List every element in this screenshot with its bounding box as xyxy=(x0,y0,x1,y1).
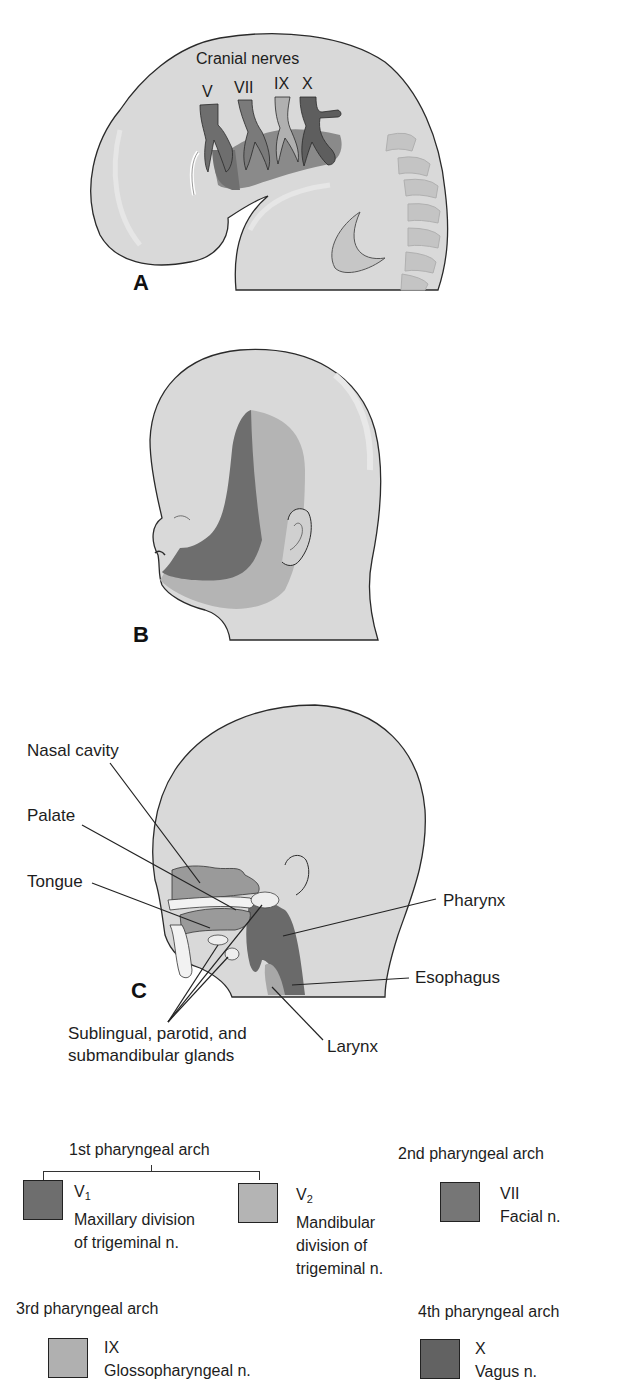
legend-vii-name: Facial n. xyxy=(500,1205,560,1228)
legend-x-name: Vagus n. xyxy=(475,1360,537,1383)
legend-arch1-bracket-tick xyxy=(151,1165,152,1171)
legend-v2-code: V xyxy=(296,1186,307,1203)
legend-ix-code: IX xyxy=(104,1336,251,1359)
legend-vii-text: VII Facial n. xyxy=(500,1182,560,1228)
legend-v2-line2: division of xyxy=(296,1234,383,1257)
legend-arch1-title: 1st pharyngeal arch xyxy=(69,1141,210,1159)
label-nasal-cavity: Nasal cavity xyxy=(27,741,119,761)
panel-letter-c: C xyxy=(131,978,147,1004)
legend-ix-text: IX Glossopharyngeal n. xyxy=(104,1336,251,1382)
label-glands-line1: Sublingual, parotid, and xyxy=(68,1024,247,1044)
legend-x-code: X xyxy=(475,1337,537,1360)
legend-v1-code: V xyxy=(74,1183,85,1200)
legend-v1-line2: of trigeminal n. xyxy=(74,1231,195,1254)
legend-ix-name: Glossopharyngeal n. xyxy=(104,1359,251,1382)
legend-arch1-bracket xyxy=(43,1171,260,1180)
sagittal-section-illustration xyxy=(0,0,622,1060)
legend-x-text: X Vagus n. xyxy=(475,1337,537,1383)
legend-v2-sub: 2 xyxy=(307,1193,313,1205)
swatch-ix xyxy=(48,1338,88,1378)
legend-vii-code: VII xyxy=(500,1182,560,1205)
legend-v2-line1: Mandibular xyxy=(296,1211,383,1234)
legend-v2-line3: trigeminal n. xyxy=(296,1257,383,1280)
legend-arch4-title: 4th pharyngeal arch xyxy=(418,1303,559,1321)
swatch-x xyxy=(420,1339,460,1379)
legend-v1-line1: Maxillary division xyxy=(74,1208,195,1231)
label-larynx: Larynx xyxy=(327,1037,378,1057)
legend-v1-text: V1 Maxillary division of trigeminal n. xyxy=(74,1180,195,1254)
legend-v2-text: V2 Mandibular division of trigeminal n. xyxy=(296,1183,383,1280)
legend-arch3-title: 3rd pharyngeal arch xyxy=(16,1300,158,1318)
label-tongue: Tongue xyxy=(27,872,83,892)
label-palate: Palate xyxy=(27,806,75,826)
swatch-v1 xyxy=(23,1180,63,1220)
legend-v1-sub: 1 xyxy=(85,1190,91,1202)
label-pharynx: Pharynx xyxy=(443,891,505,911)
label-glands-line2: submandibular glands xyxy=(68,1046,234,1066)
label-esophagus: Esophagus xyxy=(415,968,500,988)
swatch-vii xyxy=(440,1182,480,1222)
legend-arch2-title: 2nd pharyngeal arch xyxy=(398,1145,544,1163)
swatch-v2 xyxy=(238,1183,278,1223)
